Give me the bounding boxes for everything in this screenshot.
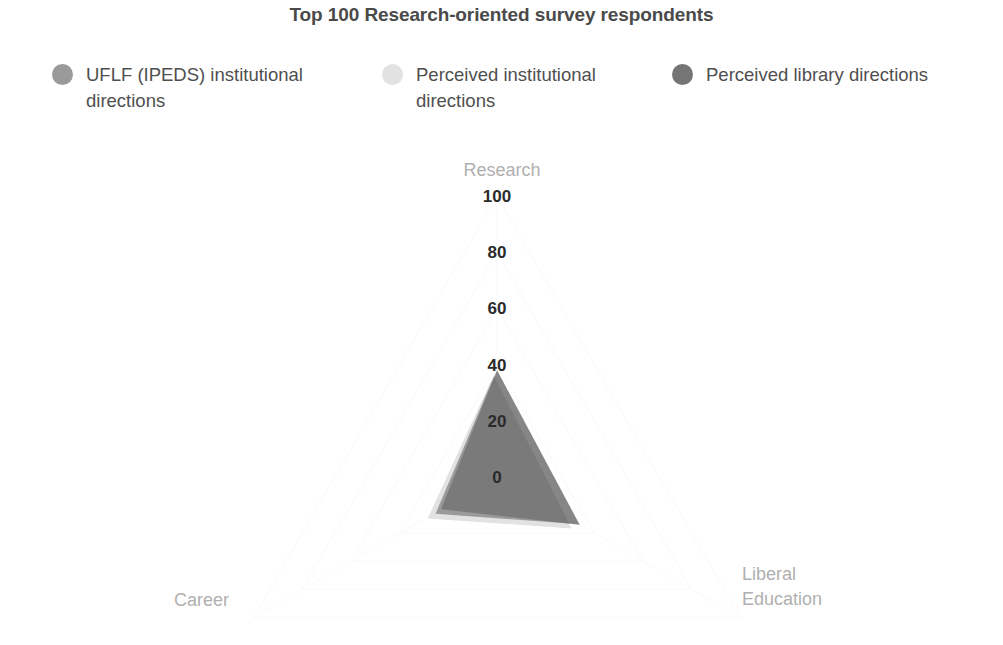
axis-label-liberal-education: Liberal Education [742, 562, 902, 612]
axis-label-career: Career [174, 588, 294, 613]
chart-series-polygons [428, 370, 580, 528]
radial-tick-label: 0 [457, 468, 537, 488]
radial-tick-label: 80 [457, 243, 537, 263]
radial-tick-label: 100 [457, 187, 537, 207]
radial-tick-label: 20 [457, 412, 537, 432]
axis-label-research: Research [447, 158, 557, 183]
radar-chart-plot [0, 0, 1003, 645]
radial-tick-label: 60 [457, 299, 537, 319]
radial-tick-label: 40 [457, 356, 537, 376]
